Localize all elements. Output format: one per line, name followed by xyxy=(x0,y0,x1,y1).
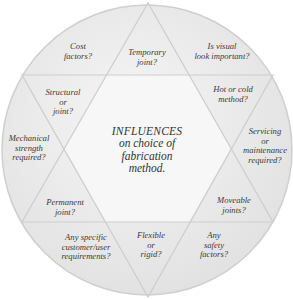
segment-hot-cold: Hot or cold method? xyxy=(213,85,253,104)
segment-visual: Is visual look important? xyxy=(194,42,249,61)
segment-line: joint? xyxy=(46,208,84,218)
fabrication-influences-diagram: INFLUENCES on choice of fabrication meth… xyxy=(0,0,293,300)
segment-line: look important? xyxy=(194,52,249,62)
segment-servicing: Servicing or maintenance required? xyxy=(243,127,287,165)
segment-line: factors? xyxy=(64,52,92,62)
segment-safety: Any safety factors? xyxy=(200,231,228,260)
segment-mechanical: Mechanical strength required? xyxy=(9,134,50,163)
segment-permanent: Permanent joint? xyxy=(46,198,84,217)
segment-temporary: Temporary joint? xyxy=(128,48,165,67)
segment-line: joints? xyxy=(217,206,251,216)
segment-line: requirements? xyxy=(61,252,110,262)
segment-line: joint? xyxy=(128,58,165,68)
center-title: INFLUENCES xyxy=(112,125,182,137)
segment-line: required? xyxy=(9,153,50,163)
segment-line: joint? xyxy=(46,107,81,117)
center-line: method. xyxy=(112,162,182,175)
segment-flexible: Flexible or rigid? xyxy=(137,231,165,260)
segment-line: factors? xyxy=(200,250,228,260)
segment-structural: Structural or joint? xyxy=(46,88,81,117)
segment-moveable: Moveable joints? xyxy=(217,196,251,215)
segment-line: required? xyxy=(243,156,287,166)
segment-line: rigid? xyxy=(137,250,165,260)
center-line: fabrication xyxy=(112,150,182,163)
segment-line: method? xyxy=(213,95,253,105)
center-title-block: INFLUENCES on choice of fabrication meth… xyxy=(112,125,182,175)
segment-customer: Any specific customer/user requirements? xyxy=(61,233,110,262)
segment-cost: Cost factors? xyxy=(64,42,92,61)
center-line: on choice of xyxy=(112,137,182,150)
